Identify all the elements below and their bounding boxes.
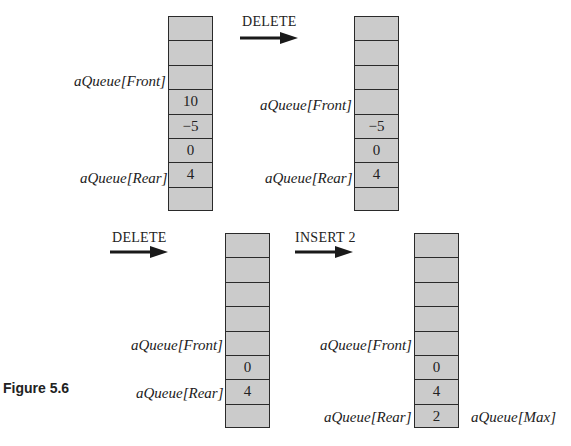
queue-cell — [226, 307, 269, 331]
queue-array-3: 0 4 — [225, 233, 270, 428]
figure-caption: Figure 5.6 — [3, 380, 69, 396]
queue-cell: 2 — [415, 405, 458, 429]
operation-label-2: DELETE — [112, 230, 167, 246]
queue-cell — [226, 283, 269, 307]
queue-cell: 10 — [169, 90, 212, 114]
front-label-1: aQueue[Front] — [74, 72, 166, 90]
queue-cell — [415, 332, 458, 356]
queue-cell: −5 — [169, 115, 212, 139]
queue-cell: 0 — [415, 356, 458, 380]
queue-array-4: 0 4 2 — [414, 233, 459, 428]
queue-array-2: −5 0 4 — [354, 16, 399, 211]
rear-label-4: aQueue[Rear] — [324, 408, 411, 426]
queue-cell — [169, 17, 212, 41]
queue-cell: 4 — [226, 380, 269, 404]
queue-array-1: 10 −5 0 4 — [168, 16, 213, 211]
queue-cell — [226, 405, 269, 429]
queue-cell: 0 — [169, 139, 212, 163]
queue-cell — [226, 234, 269, 258]
queue-cell — [226, 332, 269, 356]
max-label-4: aQueue[Max] — [471, 408, 556, 426]
queue-cell — [415, 283, 458, 307]
rear-label-1: aQueue[Rear] — [80, 169, 167, 187]
rear-label-2: aQueue[Rear] — [265, 169, 352, 187]
queue-cell — [355, 90, 398, 114]
front-label-4: aQueue[Front] — [320, 336, 412, 354]
queue-cell — [355, 41, 398, 65]
queue-cell — [355, 17, 398, 41]
queue-cell — [226, 258, 269, 282]
front-label-3: aQueue[Front] — [131, 336, 223, 354]
queue-cell — [355, 66, 398, 90]
queue-cell: 0 — [355, 139, 398, 163]
queue-cell — [415, 307, 458, 331]
queue-cell — [169, 66, 212, 90]
arrow-right-icon — [295, 245, 355, 259]
front-label-2: aQueue[Front] — [260, 96, 352, 114]
queue-cell: 4 — [169, 163, 212, 187]
queue-cell — [415, 258, 458, 282]
queue-cell — [355, 188, 398, 212]
queue-cell — [169, 41, 212, 65]
queue-cell: 4 — [355, 163, 398, 187]
operation-label-1: DELETE — [242, 14, 297, 30]
operation-label-3: INSERT 2 — [295, 230, 356, 246]
rear-label-3: aQueue[Rear] — [136, 384, 223, 402]
queue-cell: 4 — [415, 380, 458, 404]
queue-cell — [415, 234, 458, 258]
arrow-right-icon — [110, 245, 170, 259]
queue-cell: −5 — [355, 115, 398, 139]
queue-cell: 0 — [226, 356, 269, 380]
arrow-right-icon — [240, 31, 300, 45]
queue-cell — [169, 188, 212, 212]
